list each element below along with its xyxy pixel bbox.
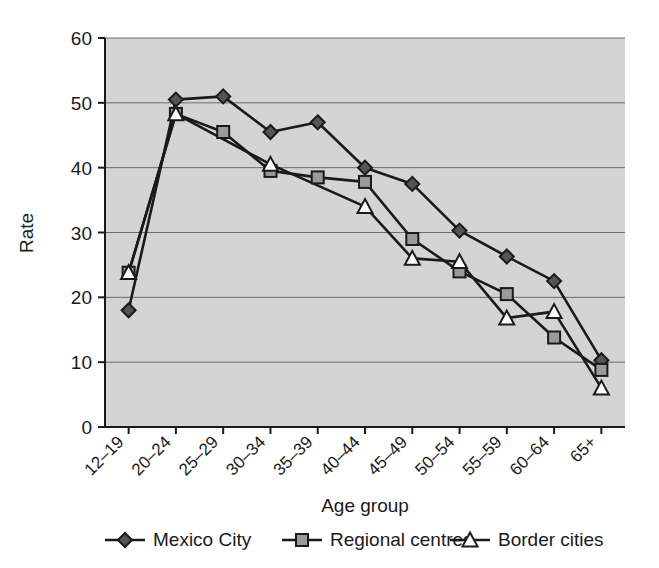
y-axis-tick-label: 20: [71, 287, 92, 308]
legend-item-2[interactable]: Regional centres: [282, 529, 473, 550]
data-point-marker-square: [406, 233, 418, 245]
data-point-marker-square: [217, 126, 229, 138]
x-axis-title: Age group: [321, 495, 409, 516]
x-axis-tick-label: 30–34: [222, 432, 269, 479]
line-chart: 0102030405060 12–1920–2425–2930–3435–394…: [0, 0, 659, 568]
y-axis-title: Rate: [16, 213, 37, 253]
legend-label: Mexico City: [153, 529, 252, 550]
x-axis-tick-label: 55–59: [459, 432, 506, 479]
x-axis-tick-label: 60–64: [506, 432, 553, 479]
y-axis-tick-label: 30: [71, 223, 92, 244]
legend-label: Border cities: [498, 529, 604, 550]
y-axis-tick-label: 50: [71, 93, 92, 114]
legend-item-3[interactable]: Border cities: [450, 529, 604, 550]
chart-legend: Mexico CityRegional centresBorder cities: [105, 529, 604, 550]
x-axis-tick-label: 40–44: [317, 432, 364, 479]
x-axis-tick-label: 65+: [566, 432, 600, 466]
data-point-marker-square: [548, 332, 560, 344]
y-axis-tick-label: 40: [71, 158, 92, 179]
data-point-marker-square: [359, 176, 371, 188]
data-point-marker-square: [296, 534, 308, 546]
x-axis-tick-label: 50–54: [412, 432, 459, 479]
y-axis-tick-label: 60: [71, 28, 92, 49]
data-point-marker-diamond: [118, 533, 132, 547]
x-axis-tick-label: 12–19: [81, 432, 128, 479]
data-point-marker-square: [595, 364, 607, 376]
chart-container: 0102030405060 12–1920–2425–2930–3435–394…: [0, 0, 659, 568]
x-axis-tick-label: 25–29: [175, 432, 222, 479]
data-point-marker-square: [501, 288, 513, 300]
x-axis: 12–1920–2425–2930–3435–3940–4445–4950–54…: [81, 427, 602, 479]
y-axis: 0102030405060: [71, 28, 105, 438]
legend-item-1[interactable]: Mexico City: [105, 529, 252, 550]
y-axis-tick-label: 10: [71, 352, 92, 373]
x-axis-tick-label: 20–24: [128, 432, 175, 479]
y-axis-tick-label: 0: [81, 417, 92, 438]
x-axis-tick-label: 45–49: [364, 432, 411, 479]
data-point-marker-square: [312, 171, 324, 183]
x-axis-tick-label: 35–39: [270, 432, 317, 479]
